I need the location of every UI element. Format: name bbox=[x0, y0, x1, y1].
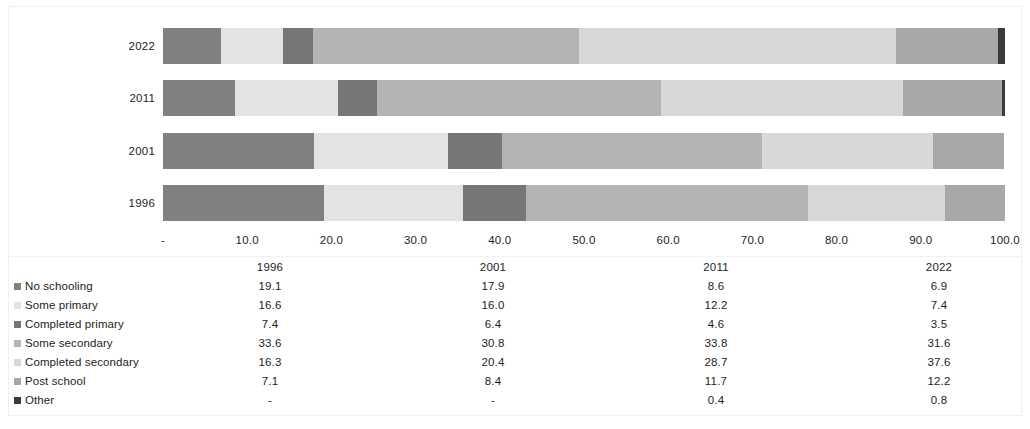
bar-row: 2001 bbox=[163, 133, 1005, 169]
legend-item[interactable]: Some primary bbox=[14, 296, 244, 315]
table-cell-value: 20.4 bbox=[448, 353, 538, 372]
legend-swatch-icon bbox=[14, 302, 21, 309]
table-row: Completed primary7.46.44.63.5 bbox=[10, 315, 1022, 334]
legend-item-label: Completed secondary bbox=[25, 353, 139, 372]
table-cell-value: - bbox=[225, 391, 315, 410]
table-column-header: 2001 bbox=[448, 258, 538, 277]
table-cell-value: 0.4 bbox=[671, 391, 761, 410]
bar-segment bbox=[314, 133, 449, 169]
bar-segment bbox=[502, 133, 761, 169]
table-cell-value: 17.9 bbox=[448, 277, 538, 296]
x-axis-tick-label: 40.0 bbox=[488, 234, 511, 246]
table-cell-value: 37.6 bbox=[894, 353, 984, 372]
x-axis-tick-label: 80.0 bbox=[825, 234, 848, 246]
legend-swatch-icon bbox=[14, 340, 21, 347]
x-axis-tick-label: 70.0 bbox=[741, 234, 764, 246]
table-column-header: 2022 bbox=[894, 258, 984, 277]
table-cell-value: 7.4 bbox=[225, 315, 315, 334]
bar-segment bbox=[163, 185, 324, 221]
bar-track bbox=[163, 185, 1005, 221]
bar-segment bbox=[762, 133, 934, 169]
legend-item-label: Post school bbox=[25, 372, 86, 391]
stacked-bar-chart: 2022201120011996 bbox=[0, 0, 1030, 232]
table-cell-value: 19.1 bbox=[225, 277, 315, 296]
table-cell-value: 16.3 bbox=[225, 353, 315, 372]
legend-item[interactable]: Completed primary bbox=[14, 315, 244, 334]
table-header-row: 1996200120112022 bbox=[10, 258, 1022, 277]
table-column-header: 2011 bbox=[671, 258, 761, 277]
legend-swatch-icon bbox=[14, 359, 21, 366]
bar-track bbox=[163, 133, 1005, 169]
bar-segment bbox=[463, 185, 525, 221]
table-cell-value: 7.1 bbox=[225, 372, 315, 391]
table-cell-value: 6.9 bbox=[894, 277, 984, 296]
bar-row: 2011 bbox=[163, 80, 1005, 116]
legend-swatch-icon bbox=[14, 378, 21, 385]
x-axis: -10.020.030.040.050.060.070.080.090.0100… bbox=[163, 234, 1005, 252]
legend-item-label: No schooling bbox=[25, 277, 93, 296]
bar-segment bbox=[324, 185, 464, 221]
legend-item-label: Other bbox=[25, 391, 54, 410]
table-cell-value: 16.6 bbox=[225, 296, 315, 315]
legend-swatch-icon bbox=[14, 283, 21, 290]
x-axis-tick-label: 100.0 bbox=[990, 234, 1020, 246]
table-top-rule bbox=[10, 256, 1022, 257]
bar-category-label: 2011 bbox=[101, 80, 155, 116]
table-row: Completed secondary16.320.428.737.6 bbox=[10, 353, 1022, 372]
table-cell-value: 12.2 bbox=[671, 296, 761, 315]
x-axis-tick-label: 50.0 bbox=[572, 234, 595, 246]
table-cell-value: 28.7 bbox=[671, 353, 761, 372]
legend-data-table: 1996200120112022No schooling19.117.98.66… bbox=[10, 258, 1022, 410]
x-axis-tick-label: - bbox=[161, 234, 165, 246]
bar-category-label: 2001 bbox=[101, 133, 155, 169]
bar-segment bbox=[903, 80, 1002, 116]
table-cell-value: 0.8 bbox=[894, 391, 984, 410]
legend-item[interactable]: Some secondary bbox=[14, 334, 244, 353]
legend-item[interactable]: Post school bbox=[14, 372, 244, 391]
bar-segment bbox=[235, 80, 338, 116]
legend-item-label: Completed primary bbox=[25, 315, 124, 334]
bar-segment bbox=[998, 28, 1005, 64]
bar-segment bbox=[448, 133, 502, 169]
table-column-header: 1996 bbox=[225, 258, 315, 277]
bar-segment bbox=[313, 28, 579, 64]
bar-segment bbox=[377, 80, 662, 116]
bar-segment bbox=[163, 28, 221, 64]
chart-page: 2022201120011996 -10.020.030.040.050.060… bbox=[0, 0, 1030, 429]
bar-segment bbox=[945, 185, 1005, 221]
x-axis-tick-label: 90.0 bbox=[909, 234, 932, 246]
bar-segment bbox=[163, 133, 314, 169]
bar-segment bbox=[338, 80, 377, 116]
table-cell-value: 3.5 bbox=[894, 315, 984, 334]
x-axis-tick-label: 20.0 bbox=[320, 234, 343, 246]
table-cell-value: 30.8 bbox=[448, 334, 538, 353]
bar-segment bbox=[163, 80, 235, 116]
bar-row: 1996 bbox=[163, 185, 1005, 221]
x-axis-tick-label: 60.0 bbox=[657, 234, 680, 246]
table-row: Other--0.40.8 bbox=[10, 391, 1022, 410]
table-cell-value: - bbox=[448, 391, 538, 410]
bar-segment bbox=[579, 28, 896, 64]
legend-item[interactable]: Other bbox=[14, 391, 244, 410]
table-cell-value: 33.6 bbox=[225, 334, 315, 353]
table-cell-value: 12.2 bbox=[894, 372, 984, 391]
bar-segment bbox=[661, 80, 903, 116]
bar-segment bbox=[1002, 80, 1005, 116]
bar-row: 2022 bbox=[163, 28, 1005, 64]
table-cell-value: 8.6 bbox=[671, 277, 761, 296]
legend-item[interactable]: No schooling bbox=[14, 277, 244, 296]
legend-item[interactable]: Completed secondary bbox=[14, 353, 244, 372]
table-cell-value: 6.4 bbox=[448, 315, 538, 334]
table-row: Some primary16.616.012.27.4 bbox=[10, 296, 1022, 315]
bar-segment bbox=[808, 185, 945, 221]
table-cell-value: 4.6 bbox=[671, 315, 761, 334]
bar-segment bbox=[221, 28, 283, 64]
table-row: Post school7.18.411.712.2 bbox=[10, 372, 1022, 391]
legend-item-label: Some primary bbox=[25, 296, 98, 315]
table-cell-value: 7.4 bbox=[894, 296, 984, 315]
table-row: No schooling19.117.98.66.9 bbox=[10, 277, 1022, 296]
legend-swatch-icon bbox=[14, 397, 21, 404]
table-cell-value: 11.7 bbox=[671, 372, 761, 391]
bar-segment bbox=[933, 133, 1004, 169]
table-cell-value: 8.4 bbox=[448, 372, 538, 391]
